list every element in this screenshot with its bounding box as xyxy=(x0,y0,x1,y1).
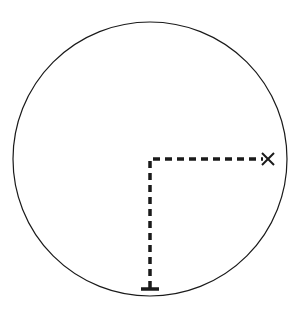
diagram-svg xyxy=(0,0,298,310)
dashed-route-path xyxy=(150,159,263,288)
diagram-canvas xyxy=(0,0,298,310)
boundary-circle xyxy=(13,22,287,296)
end-marker-x-icon xyxy=(262,153,274,165)
